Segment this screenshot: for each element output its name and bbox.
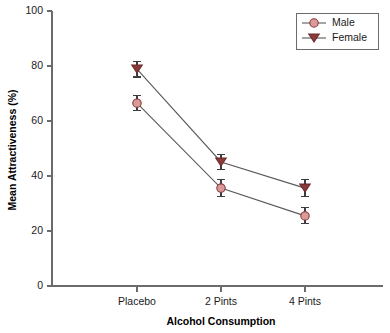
axes-group	[52, 11, 383, 286]
x-axis-ticks: Placebo2 Pints4 Pints	[118, 286, 321, 307]
y-tick-label: 80	[31, 59, 43, 71]
legend-label: Male	[332, 16, 355, 28]
marker-circle	[301, 212, 309, 220]
y-axis-title: Mean Attractiveness (%)	[6, 90, 18, 211]
y-axis-ticks: 020406080100	[25, 4, 52, 291]
x-tick-label: 4 Pints	[289, 295, 321, 307]
marker-circle	[133, 99, 141, 107]
chart-legend: MaleFemale	[296, 13, 378, 49]
marker-triangle	[300, 184, 311, 192]
y-tick-label: 100	[25, 4, 43, 16]
marker-triangle	[132, 65, 143, 73]
series-female	[132, 61, 311, 196]
marker-circle	[310, 19, 318, 27]
legend-label: Female	[332, 31, 367, 43]
line-chart: 020406080100 Placebo2 Pints4 Pints MaleF…	[0, 0, 390, 333]
marker-circle	[217, 184, 225, 192]
y-tick-label: 40	[31, 169, 43, 181]
y-tick-label: 20	[31, 224, 43, 236]
data-series-group	[132, 61, 311, 224]
marker-triangle	[216, 158, 227, 166]
x-tick-label: 2 Pints	[205, 295, 237, 307]
x-axis-title: Alcohol Consumption	[166, 315, 275, 327]
y-tick-label: 0	[37, 279, 43, 291]
plot-svg: 020406080100 Placebo2 Pints4 Pints MaleF…	[0, 0, 390, 333]
y-tick-label: 60	[31, 114, 43, 126]
x-tick-label: Placebo	[118, 295, 156, 307]
